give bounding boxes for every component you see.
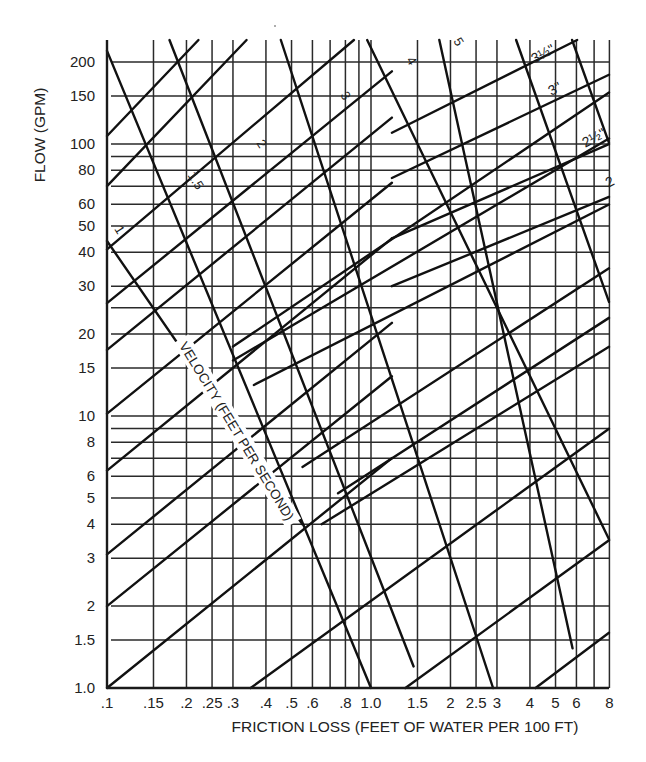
x-tick-label: 4: [526, 694, 534, 711]
x-tick-label: 2: [446, 694, 454, 711]
x-tick-label: .1: [101, 694, 114, 711]
y-tick-label: 20: [78, 325, 95, 342]
pipe-size-line: [338, 318, 609, 493]
velocity-label-2: 2: [254, 137, 271, 151]
pipe-label-2-inch: 2: [602, 173, 617, 191]
pipe-size-line: [107, 183, 392, 414]
x-tick-label: .4: [260, 694, 273, 711]
y-tick-label: 10: [78, 407, 95, 424]
x-tick-label: .8: [339, 694, 352, 711]
y-tick-label: 80: [78, 161, 95, 178]
y-tick-label: 30: [78, 277, 95, 294]
y-tick-labels: 1.01.52345681015203040506080100150200: [70, 53, 95, 696]
x-tick-label: 5: [551, 694, 559, 711]
friction-loss-chart: 1.01.52345681015203040506080100150200 .1…: [0, 0, 646, 762]
velocity-label-5: 5: [451, 35, 468, 49]
y-tick-label: 4: [87, 515, 95, 532]
y-tick-label: 100: [70, 135, 95, 152]
y-tick-label: 6: [87, 467, 95, 484]
y-tick-label: 15: [78, 359, 95, 376]
x-tick-label: 2.5: [466, 694, 487, 711]
y-tick-label: 150: [70, 87, 95, 104]
y-tick-label: 60: [78, 195, 95, 212]
y-tick-label: 40: [78, 243, 95, 260]
y-tick-label: 2: [87, 597, 95, 614]
speck: [274, 25, 276, 27]
pipe-size-line: [536, 633, 609, 688]
plot-frame: [107, 40, 609, 688]
x-tick-label: .5: [285, 694, 298, 711]
x-tick-label: .3: [227, 694, 240, 711]
vertical-gridlines: [107, 40, 609, 688]
x-tick-label: 1.5: [407, 694, 428, 711]
y-tick-label: 3: [87, 549, 95, 566]
x-tick-label: .25: [202, 694, 223, 711]
pipe-size-line: [107, 40, 198, 136]
x-tick-labels: .1.15.2.25.3.4.5.6.81.01.522.534568: [101, 694, 614, 711]
y-tick-label: 8: [87, 433, 95, 450]
x-tick-label: 3: [493, 694, 501, 711]
y-tick-label: 5: [87, 489, 95, 506]
x-tick-label: .6: [306, 694, 319, 711]
x-tick-label: 8: [605, 694, 613, 711]
x-tick-label: .2: [180, 694, 193, 711]
y-tick-label: 1.0: [74, 679, 95, 696]
velocity-line: [107, 51, 371, 688]
diagonal-lines: [107, 40, 609, 688]
x-tick-label: 6: [572, 694, 580, 711]
velocity-axis-title: VELOCITY (FEET PER SECOND): [176, 339, 297, 523]
velocity-line: [572, 40, 609, 143]
x-tick-label: 1.0: [361, 694, 382, 711]
velocity-line: [367, 40, 609, 539]
y-tick-label: 1.5: [74, 631, 95, 648]
y-axis-title: FLOW (GPM): [31, 88, 48, 183]
x-tick-label: .15: [143, 694, 164, 711]
y-tick-label: 50: [78, 217, 95, 234]
pipe-size-line: [405, 540, 609, 688]
y-tick-label: 200: [70, 53, 95, 70]
velocity-label-1-5: 1.5: [185, 169, 207, 192]
pipe-size-line: [233, 138, 609, 360]
x-axis-title: FRICTION LOSS (FEET OF WATER PER 100 FT): [232, 718, 579, 735]
